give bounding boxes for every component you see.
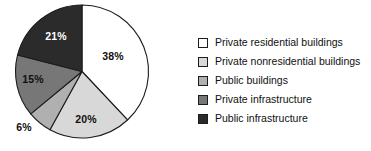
pie-slice-value-label: 20% bbox=[75, 113, 97, 125]
legend-item: Public buildings bbox=[198, 71, 370, 90]
legend-swatch-icon bbox=[198, 38, 208, 48]
legend-swatch-icon bbox=[198, 95, 208, 105]
pie-slice-value-label: 15% bbox=[22, 73, 44, 85]
legend-item: Private residential buildings bbox=[198, 33, 370, 52]
legend-item-label: Private infrastructure bbox=[215, 94, 312, 105]
legend-item: Private infrastructure bbox=[198, 90, 370, 109]
legend-item-label: Public buildings bbox=[215, 75, 288, 86]
pie-slice-value-label: 21% bbox=[45, 30, 67, 42]
pie-slice-value-label: 38% bbox=[102, 50, 124, 62]
chart-legend: Private residential buildingsPrivate non… bbox=[198, 33, 370, 128]
pie-chart-plot-area: 38%20%6%15%21% bbox=[0, 0, 178, 151]
legend-item: Private nonresidential buildings bbox=[198, 52, 370, 71]
pie-chart-svg: 38%20%6%15%21% bbox=[0, 0, 178, 151]
legend-swatch-icon bbox=[198, 114, 208, 124]
legend-swatch-icon bbox=[198, 57, 208, 67]
legend-item-label: Public infrastructure bbox=[215, 113, 308, 124]
legend-item: Public infrastructure bbox=[198, 109, 370, 128]
legend-item-label: Private nonresidential buildings bbox=[215, 56, 360, 67]
pie-slice-value-label: 6% bbox=[16, 121, 32, 133]
legend-item-label: Private residential buildings bbox=[215, 37, 343, 48]
legend-swatch-icon bbox=[198, 76, 208, 86]
pie-chart-figure: 38%20%6%15%21% Private residential build… bbox=[0, 0, 371, 151]
